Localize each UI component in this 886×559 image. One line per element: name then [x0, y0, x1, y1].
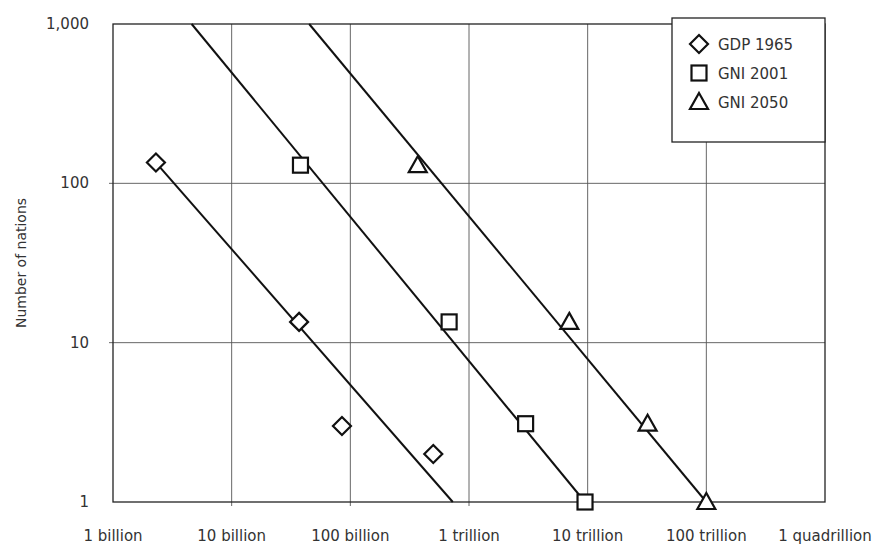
square-marker	[293, 158, 308, 173]
x-tick-label: 100 trillion	[666, 527, 747, 545]
diamond-marker	[290, 313, 308, 331]
legend-label: GDP 1965	[718, 36, 793, 54]
diamond-marker	[333, 417, 351, 435]
y-tick-label: 10	[70, 334, 89, 352]
y-axis-title: Number of nations	[13, 198, 29, 328]
legend-label: GNI 2050	[718, 94, 788, 112]
x-tick-label: 10 trillion	[552, 527, 623, 545]
y-tick-label: 100	[60, 174, 89, 192]
fit-lines	[156, 24, 706, 502]
y-tick-label: 1	[79, 493, 89, 511]
square-marker	[442, 314, 457, 329]
x-tick-label: 10 billion	[197, 527, 266, 545]
triangle-marker	[560, 313, 578, 329]
fit-line	[156, 163, 453, 502]
square-marker	[518, 416, 533, 431]
square-marker	[578, 495, 593, 510]
x-tick-label: 1 trillion	[438, 527, 500, 545]
square-marker	[692, 66, 707, 81]
y-axis-tick-labels: 1101001,000	[46, 15, 89, 511]
data-markers	[147, 154, 715, 510]
x-tick-label: 1 quadrillion	[778, 527, 872, 545]
chart: 1 billion10 billion100 billion1 trillion…	[0, 0, 886, 559]
x-tick-label: 1 billion	[83, 527, 142, 545]
x-axis-tick-labels: 1 billion10 billion100 billion1 trillion…	[83, 527, 871, 545]
diamond-marker	[424, 445, 442, 463]
x-tick-label: 100 billion	[311, 527, 389, 545]
y-tick-label: 1,000	[46, 15, 89, 33]
legend: GDP 1965GNI 2001GNI 2050	[672, 18, 825, 142]
legend-label: GNI 2001	[718, 65, 788, 83]
triangle-marker	[409, 156, 427, 172]
